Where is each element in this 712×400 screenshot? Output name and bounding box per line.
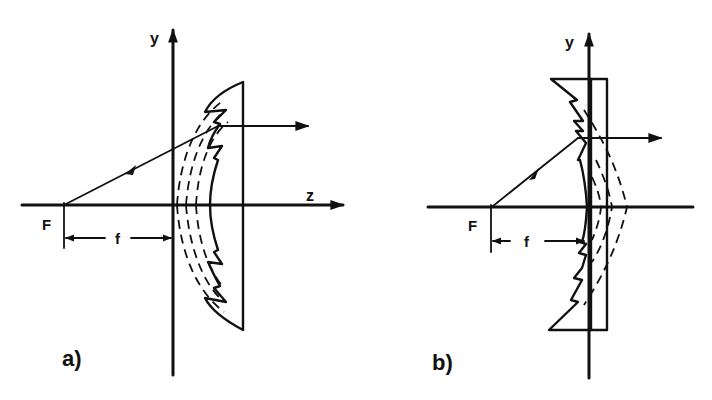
z-axis-label-a: z: [306, 187, 314, 204]
focal-length-label-a: f: [115, 230, 121, 247]
lens-b-plate: [591, 79, 607, 330]
panel-label-b: b): [432, 350, 453, 375]
panel-b: y F f b): [428, 34, 693, 378]
fresnel-lens-figure: y z F f a) y: [0, 0, 712, 400]
y-axis-label-b: y: [565, 34, 574, 51]
ray-incident-a: [64, 126, 218, 205]
panel-a: y z F f a): [22, 30, 343, 375]
ray-incident-b: [493, 138, 578, 206]
y-axis-label-a: y: [150, 30, 159, 47]
focal-length-label-b: f: [524, 233, 530, 250]
lens-b-sawtooth: [549, 79, 591, 330]
focal-point-label-b: F: [468, 217, 477, 234]
focal-point-label-a: F: [42, 216, 51, 233]
ray-direction-arrow-a: [125, 165, 136, 175]
panel-label-a: a): [62, 346, 82, 371]
ray-direction-arrow-b: [529, 168, 539, 180]
